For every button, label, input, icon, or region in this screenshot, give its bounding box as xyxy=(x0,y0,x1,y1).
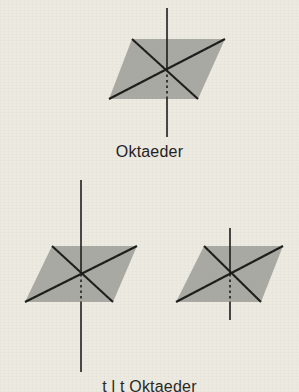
caption-oktaeder: Oktaeder xyxy=(0,143,299,161)
figure-octahedron-bottom-left xyxy=(10,175,150,380)
figure-octahedron-bottom-right xyxy=(168,220,293,330)
figure-octahedron-top xyxy=(95,0,240,145)
caption-bottom-cut-off: t l t Oktaeder xyxy=(0,379,299,392)
page-canvas: Oktaeder t l t Oktaeder xyxy=(0,0,299,392)
